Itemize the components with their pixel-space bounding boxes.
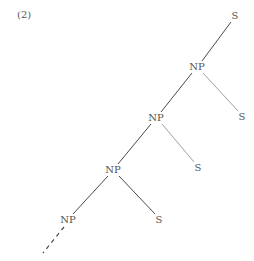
edge-np4-continuation: [43, 227, 64, 253]
edge-np3-s3: [119, 176, 155, 214]
node-np2: NP: [148, 113, 163, 123]
edge-s0-np1: [202, 22, 231, 61]
tree-edges: [0, 0, 254, 261]
edge-np2-s2: [162, 124, 194, 162]
edge-np3-np4: [73, 176, 108, 214]
node-np1: NP: [189, 62, 204, 72]
syntax-tree-diagram: (2) S NP S NP S NP S NP: [0, 0, 254, 261]
node-s0: S: [232, 11, 239, 21]
edge-np1-s1: [203, 73, 238, 111]
node-s3: S: [156, 215, 163, 225]
node-np4: NP: [60, 215, 75, 225]
node-np3: NP: [105, 165, 120, 175]
node-s2: S: [195, 163, 202, 173]
edge-np2-np3: [118, 124, 151, 164]
edge-np1-np2: [161, 73, 192, 112]
node-s1: S: [239, 112, 246, 122]
